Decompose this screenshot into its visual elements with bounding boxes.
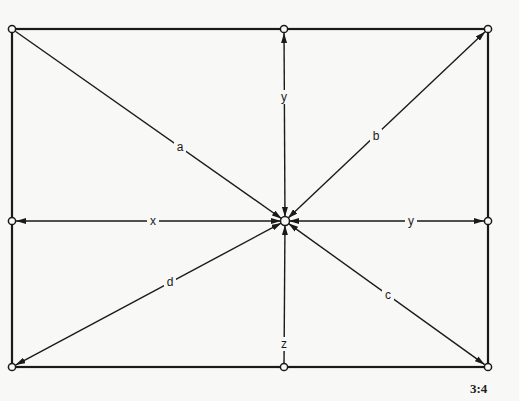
arrow-label-y: y [281, 90, 287, 104]
node-center [281, 217, 290, 226]
node-top-left [8, 25, 15, 32]
node-top-right [484, 25, 491, 32]
diagram-canvas: abcdxyyz [0, 0, 519, 401]
arrow-label-d: d [167, 275, 174, 289]
node-top-mid [280, 25, 287, 32]
node-left-mid [8, 217, 15, 224]
arrow-label-y: y [408, 214, 414, 228]
arrow-y [284, 33, 285, 217]
arrow-group [15, 31, 485, 365]
node-bottom-mid [280, 363, 287, 370]
node-bottom-left [8, 363, 15, 370]
arrow-label-c: c [385, 288, 391, 302]
arrow-label-b: b [373, 129, 380, 143]
arrow-label-a: a [177, 140, 184, 154]
figure-caption: 3:4 [470, 381, 487, 397]
arrow-b [288, 32, 485, 219]
diagram: abcdxyyz 3:4 [0, 0, 519, 401]
arrow-d [16, 223, 282, 365]
arrow-label-z: z [281, 337, 287, 351]
node-right-mid [484, 217, 491, 224]
arrow-a [15, 31, 281, 218]
arrow-label-x: x [150, 214, 156, 228]
node-bottom-right [484, 363, 491, 370]
